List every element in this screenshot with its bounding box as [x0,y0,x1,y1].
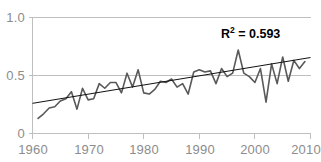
y-tick-label-1.0: 1.0 [6,10,25,25]
x-tick-label-1980: 1980 [129,142,159,157]
time-series-chart: 1.0 0.5 0 1960 1970 1980 1990 2000 2010 … [0,0,321,162]
x-tick-label-2010: 2010 [291,142,321,157]
chart-container: 1.0 0.5 0 1960 1970 1980 1990 2000 2010 … [0,0,321,162]
y-axis: 1.0 0.5 0 [6,10,32,141]
y-tick-label-0: 0 [18,126,25,141]
r-squared-annotation: R2 = 0.593 [221,25,280,41]
x-tick-label-2000: 2000 [240,142,270,157]
x-tick-label-1990: 1990 [185,142,215,157]
x-tick-label-1960: 1960 [18,142,48,157]
x-tick-label-1970: 1970 [74,142,104,157]
data-series-line [38,50,305,118]
x-axis: 1960 1970 1980 1990 2000 2010 [18,134,321,158]
y-tick-label-0.5: 0.5 [6,68,25,83]
